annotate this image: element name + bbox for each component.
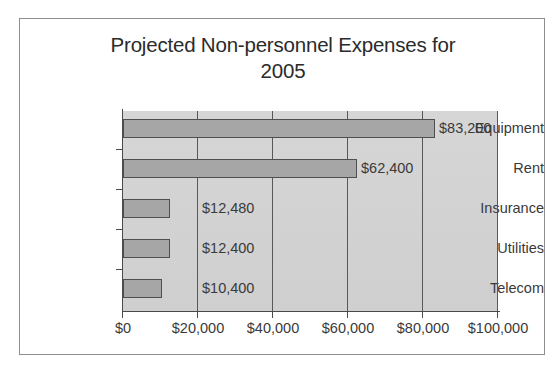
bar-utilities [123,239,170,258]
y-axis-tick-3 [116,229,123,230]
gridline-80000 [422,111,423,311]
x-axis-label-80000: $80,000 [397,320,449,336]
x-axis-label-0: $0 [115,320,131,336]
gridline-100000 [497,111,498,311]
x-axis-label-100000: $100,000 [468,320,528,336]
bar-equipment [123,119,435,138]
plot-area [123,111,498,311]
gridline-40000 [272,111,273,311]
x-axis-label-60000: $60,000 [322,320,374,336]
x-axis-tick-80000 [422,312,423,318]
bar-telecom [123,279,162,298]
chart-title-line-1: Projected Non-personnel Expenses for [20,32,546,58]
chart-title-line-2: 2005 [20,58,546,84]
bar-value-telecom: $10,400 [202,280,254,296]
gridline-20000 [197,111,198,311]
y-axis-line [122,109,123,313]
bar-rent [123,159,357,178]
bar-value-rent: $62,400 [361,160,413,176]
chart-title: Projected Non-personnel Expenses for 200… [20,32,546,84]
y-axis-tick-2 [116,189,123,190]
category-label-telecom: Telecom [448,280,544,296]
x-axis-tick-0 [122,312,123,318]
chart-frame: Projected Non-personnel Expenses for 200… [19,18,545,355]
y-axis-tick-1 [116,149,123,150]
x-axis-tick-60000 [347,312,348,318]
bar-value-utilities: $12,400 [202,240,254,256]
category-label-utilities: Utilities [448,240,544,256]
category-label-insurance: Insurance [448,200,544,216]
x-axis-label-40000: $40,000 [247,320,299,336]
gridline-60000 [347,111,348,311]
bar-value-equipment: $83,200 [439,120,491,136]
x-axis-tick-40000 [272,312,273,318]
bar-insurance [123,199,170,218]
x-axis-tick-100000 [497,312,498,318]
x-axis-label-20000: $20,000 [172,320,224,336]
y-axis-tick-4 [116,269,123,270]
x-axis-line [122,311,500,312]
x-axis-tick-20000 [197,312,198,318]
bar-value-insurance: $12,480 [202,200,254,216]
category-label-rent: Rent [448,160,544,176]
